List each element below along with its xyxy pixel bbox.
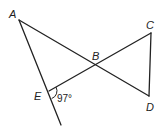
point-label-b: B	[92, 50, 99, 62]
ray-ae	[19, 20, 61, 125]
point-label-a: A	[8, 8, 16, 20]
segment-ad	[19, 20, 149, 96]
segment-cd	[149, 33, 151, 96]
diagram-svg: A B C D E 97°	[0, 0, 164, 130]
point-label-e: E	[34, 90, 42, 102]
angle-label-e: 97°	[57, 93, 72, 104]
point-label-c: C	[146, 19, 154, 31]
geometry-diagram: A B C D E 97°	[0, 0, 164, 130]
segment-ec	[49, 33, 151, 91]
point-label-d: D	[146, 101, 154, 113]
